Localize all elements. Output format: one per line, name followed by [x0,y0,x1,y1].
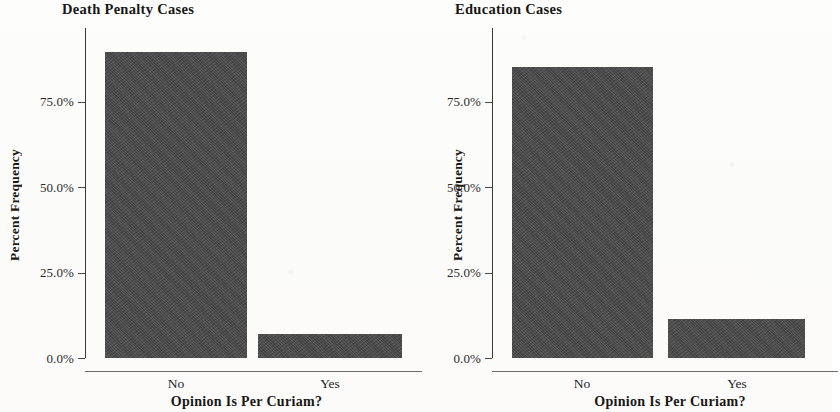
x-axis-label-left: Opinion Is Per Curiam? [81,394,412,410]
y-tick-right-0: 0.0% [485,358,492,359]
y-tick-label-right-75: 75.0% [447,94,481,110]
plot-area-right: 0.0% 25.0% 50.0% 75.0% No Yes Opinion Is… [492,28,832,358]
y-tick-label-left-0: 0.0% [47,351,74,367]
panel-title-left: Death Penalty Cases [62,1,194,18]
y-tick-right-25: 25.0% [485,273,492,274]
x-category-label-left-no: No [168,376,185,392]
y-tick-label-left-75: 75.0% [40,94,74,110]
panel-education-cases: Education Cases Percent Frequency 0.0% 2… [416,0,832,412]
x-axis-line-left [85,371,422,372]
y-tick-left-50: 50.0% [78,187,85,188]
bar-left-no [105,52,247,358]
x-axis-label-right: Opinion Is Per Curiam? [500,394,840,410]
x-category-label-left-yes: Yes [320,376,340,392]
y-tick-left-0: 0.0% [78,358,85,359]
y-tick-label-left-50: 50.0% [40,180,74,196]
bar-left-yes [258,334,402,358]
bar-right-yes [668,319,805,358]
y-tick-right-75: 75.0% [485,102,492,103]
y-tick-label-right-25: 25.0% [447,265,481,281]
y-tick-label-right-50: 50.0% [447,180,481,196]
panel-title-right: Education Cases [455,1,562,18]
y-axis-label-left: Percent Frequency [2,110,28,300]
y-tick-left-75: 75.0% [78,102,85,103]
y-axis-line-left [85,28,86,358]
y-tick-label-left-25: 25.0% [40,265,74,281]
y-tick-label-right-0: 0.0% [454,351,481,367]
y-axis-line-right [492,28,493,358]
y-tick-left-25: 25.0% [78,273,85,274]
x-category-label-right-yes: Yes [727,376,747,392]
y-tick-right-50: 50.0% [485,187,492,188]
plot-area-left: 0.0% 25.0% 50.0% 75.0% No Yes Opinion Is… [85,28,416,358]
x-axis-line-right [492,371,838,372]
bar-right-no [512,67,653,358]
x-category-label-right-no: No [574,376,591,392]
panel-death-penalty-cases: Death Penalty Cases Percent Frequency 0.… [0,0,416,412]
